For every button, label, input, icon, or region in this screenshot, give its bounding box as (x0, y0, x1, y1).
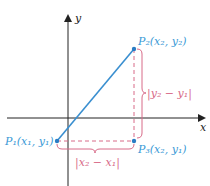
label-vertical-diff: |y₂ − y₁| (147, 87, 192, 101)
segment-p1-p2 (57, 49, 134, 141)
y-axis-label: y (74, 12, 82, 25)
label-p1: P₁(x₁, y₁) (4, 135, 54, 148)
distance-diagram: y x P₂(x₂, y₂) P₁(x₁, y₁) P₃(x₂, y₁) |y₂… (0, 0, 210, 186)
point-p3 (132, 139, 136, 143)
point-p1 (55, 139, 59, 143)
horizontal-brace (57, 144, 134, 153)
point-p2 (132, 47, 136, 51)
label-p3: P₃(x₂, y₁) (137, 143, 187, 156)
label-horizontal-diff: |x₂ − x₁| (75, 156, 120, 170)
vertical-brace (137, 49, 146, 138)
x-axis-label: x (200, 121, 207, 134)
label-p2: P₂(x₂, y₂) (137, 35, 187, 48)
